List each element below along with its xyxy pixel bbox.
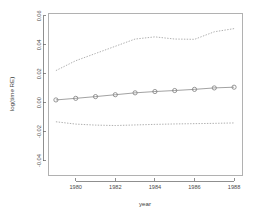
y-axis-title: log(time RE): [8, 77, 15, 111]
estimate-line: [56, 87, 234, 100]
line-chart-canvas: 0.060.040.020.00-0.02-0.04 1980198219841…: [0, 0, 261, 221]
data-series-group: [54, 29, 236, 126]
y-tick-label: 0.00: [36, 97, 42, 108]
x-tick-label: 1980: [69, 184, 81, 190]
y-tick-label: -0.04: [36, 154, 42, 167]
y-axis: 0.060.040.020.00-0.02-0.04: [36, 10, 46, 166]
confidence-band-line: [56, 122, 234, 126]
y-tick-label: 0.04: [36, 39, 42, 50]
y-tick-label: 0.02: [36, 68, 42, 79]
x-tick-label: 1986: [188, 184, 200, 190]
confidence-band-line: [56, 29, 234, 71]
x-axis: 19801982198419861988: [69, 178, 240, 190]
y-tick-label: -0.02: [36, 125, 42, 138]
plot-frame-group: [48, 13, 242, 175]
plot-frame: [48, 13, 242, 175]
x-axis-title: year: [139, 200, 151, 207]
x-tick-label: 1982: [109, 184, 121, 190]
x-tick-label: 1984: [149, 184, 161, 190]
y-tick-label: 0.06: [36, 10, 42, 21]
chart-figure: 0.060.040.020.00-0.02-0.04 1980198219841…: [0, 0, 261, 221]
x-tick-label: 1988: [228, 184, 240, 190]
